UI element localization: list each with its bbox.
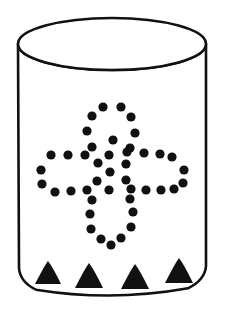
motif-dot-39 (96, 234, 105, 243)
motif-dot-22 (92, 176, 101, 185)
motif-dot-31 (156, 185, 165, 194)
motif-dot-14 (139, 148, 148, 157)
motif-dot-42 (105, 167, 114, 176)
motif-dot-40 (116, 233, 125, 242)
motif-dot-2 (116, 102, 125, 111)
motif-dot-3 (87, 111, 96, 120)
motif-dot-17 (36, 165, 45, 174)
motif-dot-1 (98, 102, 107, 111)
motif-dot-20 (179, 165, 188, 174)
motif-dot-29 (126, 184, 135, 193)
vessel-drawing (0, 0, 225, 313)
motif-dot-24 (178, 178, 187, 187)
motif-dot-43 (108, 135, 117, 144)
motif-dot-35 (85, 209, 94, 218)
motif-dot-27 (82, 185, 91, 194)
motif-dot-5 (82, 126, 91, 135)
figure-canvas (0, 0, 225, 313)
motif-dot-15 (155, 149, 164, 158)
motif-dot-10 (46, 150, 55, 159)
vessel-rim (18, 18, 206, 70)
motif-dot-32 (169, 184, 178, 193)
motif-dot-41 (106, 240, 115, 249)
motif-dot-7 (87, 142, 96, 151)
motif-dot-26 (66, 186, 75, 195)
motif-dot-16 (167, 152, 176, 161)
motif-dot-28 (104, 185, 113, 194)
motif-dot-36 (128, 207, 137, 216)
motif-dot-6 (130, 128, 139, 137)
motif-dot-21 (37, 179, 46, 188)
motif-dot-13 (122, 147, 131, 156)
motif-dot-33 (87, 195, 96, 204)
motif-dot-34 (125, 194, 134, 203)
motif-dot-19 (121, 159, 130, 168)
motif-dot-12 (104, 150, 113, 159)
motif-dot-23 (121, 175, 130, 184)
motif-dot-9 (63, 150, 72, 159)
motif-dot-18 (93, 158, 102, 167)
motif-dot-30 (141, 185, 150, 194)
motif-dot-11 (80, 150, 89, 159)
motif-dot-37 (86, 224, 95, 233)
motif-dot-38 (126, 222, 135, 231)
motif-dot-25 (50, 187, 59, 196)
motif-dot-4 (126, 112, 135, 121)
